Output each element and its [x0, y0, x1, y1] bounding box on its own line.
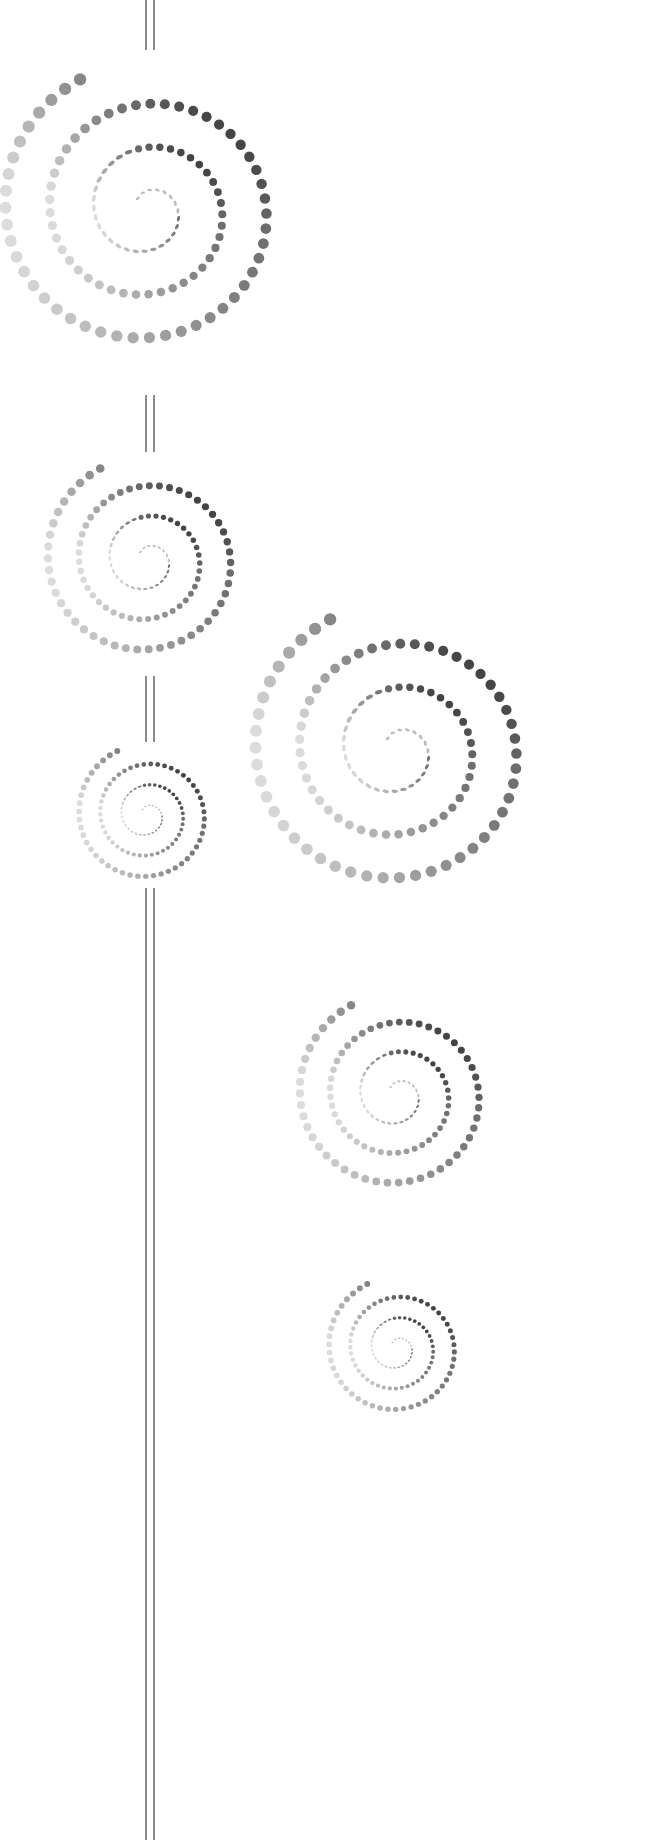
spiral-dot: [80, 576, 86, 582]
spiral-dot: [162, 763, 167, 768]
spiral-dot: [158, 871, 163, 876]
spiral-crescent: [394, 1339, 397, 1341]
spiral-dot: [403, 1316, 407, 1320]
spiral-dot: [95, 326, 106, 337]
spiral-dot: [331, 1159, 339, 1167]
spiral-dot: [435, 1067, 440, 1072]
spiral-crescent: [362, 1103, 366, 1108]
spiral-crescent: [143, 834, 146, 836]
spiral-dot: [220, 528, 227, 535]
spiral-dot: [353, 1363, 357, 1367]
spiral-crescent: [411, 1348, 413, 1351]
spiral-dot: [412, 1296, 417, 1301]
spiral-crescent: [142, 547, 146, 550]
spiral-dot: [48, 221, 57, 230]
spiral-dot: [445, 1087, 450, 1092]
spiral-dot: [209, 178, 217, 186]
spiral-dot: [450, 1364, 455, 1369]
spiral-dot: [278, 820, 290, 832]
spiral-crescent: [123, 797, 127, 801]
spiral-dot: [356, 1369, 360, 1373]
spiral-dot: [407, 828, 416, 837]
spiral-dot: [93, 853, 99, 859]
spiral-dot: [451, 652, 461, 662]
spiral-dot: [98, 806, 102, 810]
spiral-dot: [382, 1385, 386, 1389]
spiral-dot: [315, 1143, 323, 1151]
spiral-crescent: [351, 770, 357, 778]
spiral-dot: [416, 1402, 421, 1407]
spiral-dot: [89, 770, 95, 776]
spiral-dot: [327, 1085, 333, 1091]
spiral-dot: [474, 1083, 481, 1090]
spiral-crescent: [91, 194, 96, 202]
spiral-dot: [141, 762, 146, 767]
spiral-dot: [464, 728, 472, 736]
spiral-dot: [467, 843, 478, 854]
spiral-crescent: [119, 579, 124, 584]
spiral-crescent: [365, 1065, 370, 1070]
spiral-dot: [385, 1296, 390, 1301]
spiral-crescent: [168, 559, 170, 563]
spiral-crescent: [96, 175, 103, 183]
spiral-dot: [255, 775, 267, 787]
spiral-dot: [52, 589, 60, 597]
spiral-crescent: [109, 542, 113, 548]
spiral-crescent: [397, 1366, 400, 1368]
spiral-dot: [76, 809, 82, 815]
spiral-dot: [295, 748, 304, 757]
spiral-dot: [99, 858, 105, 864]
spiral-dot: [117, 772, 122, 777]
spiral-dot: [347, 1133, 353, 1139]
spiral-f: [326, 1281, 457, 1412]
spiral-crescent: [357, 777, 364, 784]
spiral-dot: [143, 874, 148, 879]
spiral-dot: [334, 1310, 340, 1316]
spiral-crescent: [424, 763, 430, 770]
spiral-dot: [466, 1134, 473, 1141]
spiral-dot: [436, 1311, 441, 1316]
spiral-dot: [197, 560, 203, 566]
spiral-dot: [133, 645, 141, 653]
spiral-crescent: [119, 525, 125, 530]
spiral-dot: [112, 867, 117, 872]
spiral-dot: [367, 1025, 374, 1032]
spiral-dot: [108, 494, 115, 501]
spiral-crescent: [168, 194, 173, 200]
spiral-dot: [161, 849, 165, 853]
spiral-crescent: [147, 833, 150, 835]
spiral-dot: [46, 181, 55, 190]
spiral-crescent: [160, 811, 162, 814]
spiral-dot: [393, 1317, 396, 1320]
spiral-dot: [283, 647, 295, 659]
spiral-crescent: [155, 829, 158, 832]
spiral-dot: [167, 145, 174, 152]
spiral-dot: [406, 1177, 414, 1185]
spiral-crescent: [390, 731, 395, 735]
spiral-crescent: [420, 771, 426, 777]
spiral-dot: [215, 233, 223, 241]
spiral-dot: [296, 721, 305, 730]
spiral-dot: [138, 853, 142, 857]
spiral-dot: [204, 617, 212, 625]
spiral-crescent: [115, 154, 123, 161]
spiral-dot: [235, 140, 245, 150]
spiral-dot: [177, 603, 183, 609]
spiral-dot: [361, 1373, 365, 1377]
spiral-dot: [191, 783, 196, 788]
spiral-dot: [369, 829, 378, 838]
spiral-crescent: [398, 1337, 401, 1339]
spiral-dot: [187, 631, 195, 639]
spiral-dot: [437, 1125, 443, 1131]
spiral-dot: [60, 497, 69, 506]
spiral-dot: [0, 185, 12, 197]
spiral-crescent: [155, 806, 158, 809]
spiral-dot: [377, 1405, 382, 1410]
spiral-dot: [468, 750, 476, 758]
spiral-dot: [289, 832, 301, 844]
spiral-dot: [458, 1047, 465, 1054]
spiral-dot: [376, 1384, 380, 1388]
spiral-dot: [464, 660, 474, 670]
spiral-dot: [76, 549, 83, 556]
spiral-dot: [144, 332, 155, 343]
